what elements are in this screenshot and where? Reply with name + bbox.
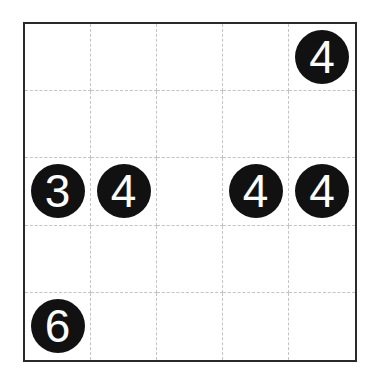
grid-cell[interactable]	[157, 24, 223, 91]
grid-cell[interactable]	[223, 226, 289, 293]
grid-cell[interactable]	[157, 293, 223, 360]
clue-circle: 6	[31, 299, 85, 353]
grid-cell[interactable]	[91, 226, 157, 293]
grid-cell[interactable]	[25, 226, 91, 293]
grid-cell[interactable]: 4	[223, 158, 289, 225]
clue-circle: 4	[295, 30, 349, 84]
grid-cell[interactable]	[289, 226, 355, 293]
grid-cell[interactable]	[223, 91, 289, 158]
grid-cell[interactable]: 4	[91, 158, 157, 225]
clue-circle: 4	[295, 164, 349, 218]
grid-cell[interactable]	[25, 24, 91, 91]
grid-cell[interactable]	[157, 91, 223, 158]
grid-cell[interactable]	[223, 24, 289, 91]
clue-circle: 4	[97, 164, 151, 218]
grid-cell[interactable]	[223, 293, 289, 360]
grid-cell[interactable]	[91, 24, 157, 91]
grid-cell[interactable]	[289, 293, 355, 360]
puzzle-board: 434446	[23, 22, 357, 362]
clue-circle: 3	[31, 164, 85, 218]
grid-cell[interactable]	[91, 293, 157, 360]
grid-cell[interactable]	[25, 91, 91, 158]
grid-cell[interactable]	[289, 91, 355, 158]
clue-circle: 4	[229, 164, 283, 218]
grid-cell[interactable]: 4	[289, 158, 355, 225]
grid-cell[interactable]	[157, 226, 223, 293]
grid-cell[interactable]: 4	[289, 24, 355, 91]
grid-cell[interactable]	[157, 158, 223, 225]
grid-cell[interactable]: 3	[25, 158, 91, 225]
grid-cell[interactable]	[91, 91, 157, 158]
grid-cell[interactable]: 6	[25, 293, 91, 360]
